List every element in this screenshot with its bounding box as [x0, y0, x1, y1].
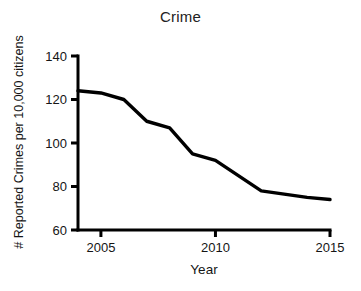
y-tick-label: 140 [45, 49, 67, 64]
y-tick-label: 80 [53, 179, 67, 194]
x-axis-ticks: 200520102015 [86, 230, 344, 255]
x-tick-label: 2015 [316, 240, 345, 255]
x-tick-label: 2005 [86, 240, 115, 255]
y-tick-label: 100 [45, 136, 67, 151]
x-tick-label: 2010 [201, 240, 230, 255]
y-axis-ticks: 6080100120140 [45, 49, 78, 238]
data-series-line [78, 91, 330, 200]
y-tick-label: 60 [53, 223, 67, 238]
y-tick-label: 120 [45, 92, 67, 107]
chart-figure: Crime # Reported Crimes per 10,000 citiz… [0, 0, 361, 291]
plot-area: 6080100120140 200520102015 [0, 0, 361, 291]
